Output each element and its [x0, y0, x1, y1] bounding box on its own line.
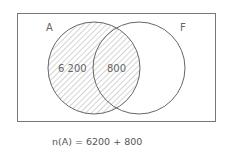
region-a-only-value: 6 200: [58, 63, 87, 74]
set-a-label: A: [46, 22, 53, 33]
region-a-and-f-value: 800: [107, 63, 126, 74]
equation-line-1: n(A) = 6200 + 800: [52, 136, 142, 147]
equation: n(A) = 6200 + 800 = 7000: [46, 125, 142, 154]
set-f-label: F: [180, 22, 186, 33]
